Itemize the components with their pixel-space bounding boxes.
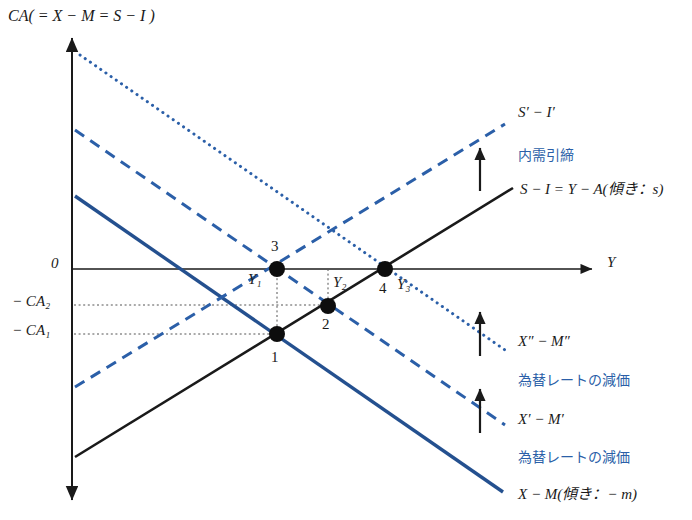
curve-s-prime-minus-i-prime [75,124,505,387]
point-label-4: 4 [379,281,387,296]
equilibrium-point-3 [269,261,285,277]
annotation-domestic-demand-contraction: 内需引締 [518,148,574,162]
income-label-y2: Y₂ [333,275,347,290]
y-tick-neg-ca2: − CA₂ [12,294,50,309]
equilibrium-point-2 [320,298,336,314]
curve-label-x-double-prime-minus-m-double-prime: X″ − M″ [518,334,570,349]
point-label-1: 1 [271,350,279,365]
point-label-2: 2 [322,317,330,332]
curve-x-double-prime-minus-m-double-prime [80,55,505,350]
curve-x-minus-m [75,196,503,492]
economics-diagram: CA( = X − M = S − I ) Y 0 − CA₂ − CA₁ S′… [0,0,692,520]
annotation-exchange-rate-depreciation-upper: 為替レートの減価 [518,373,630,387]
diagram-canvas [0,0,692,520]
x-axis-label: Y [607,255,615,270]
y-tick-zero: 0 [51,256,59,271]
equilibrium-point-4 [377,261,393,277]
point-label-3: 3 [271,239,279,254]
page-title: CA( = X − M = S − I ) [8,8,155,24]
y-tick-neg-ca1: − CA₁ [12,323,50,338]
curve-label-s-minus-i: S − I = Y − A(傾き：s) [520,182,663,197]
curve-label-s-prime-minus-i-prime: S′ − I′ [518,105,555,120]
curve-x-prime-minus-m-prime [75,130,505,425]
annotation-exchange-rate-depreciation-lower: 為替レートの減価 [518,450,630,464]
income-label-y1: Y₁ [248,272,262,287]
equilibrium-point-1 [269,326,285,342]
curve-label-x-minus-m: X − M(傾き：− m) [518,487,637,502]
curve-label-x-prime-minus-m-prime: X′ − M′ [518,412,564,427]
income-label-y3: Y₃ [397,277,411,292]
curve-s-minus-i [75,188,513,457]
